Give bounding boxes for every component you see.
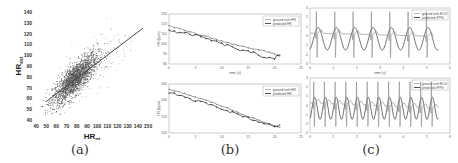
svg-text:3: 3 [306, 6, 308, 10]
svg-text:predicted HR: predicted HR [273, 92, 292, 96]
svg-text:-1: -1 [305, 113, 308, 117]
svg-text:130: 130 [24, 20, 33, 26]
svg-text:80: 80 [74, 123, 80, 129]
svg-text:10: 10 [220, 135, 224, 139]
svg-text:140: 140 [161, 98, 167, 102]
svg-text:0: 0 [306, 104, 308, 108]
svg-text:2: 2 [356, 66, 358, 70]
svg-text:15: 15 [246, 135, 250, 139]
svg-text:70: 70 [64, 123, 70, 129]
svg-text:70: 70 [26, 85, 32, 91]
svg-text:50: 50 [26, 106, 32, 112]
signal-line-plots: 0123456-3-2-10123time (s)ground truth EC… [300, 0, 458, 140]
svg-text:6: 6 [449, 66, 451, 70]
svg-text:0: 0 [168, 135, 170, 139]
svg-text:120: 120 [24, 31, 33, 37]
caption-a: (a) [60, 142, 100, 157]
svg-text:110: 110 [103, 123, 111, 129]
svg-text:HRest: HRest [14, 56, 24, 75]
svg-text:5: 5 [426, 135, 428, 139]
panel-b-hr-plots: 05101520258090100110120130time (s)HR (bp… [155, 0, 305, 140]
svg-text:-2: -2 [305, 53, 308, 57]
svg-text:40: 40 [26, 117, 32, 123]
svg-text:3: 3 [379, 66, 381, 70]
svg-text:10: 10 [220, 66, 224, 70]
svg-text:140: 140 [134, 123, 143, 129]
svg-text:5: 5 [426, 66, 428, 70]
svg-text:140: 140 [24, 9, 33, 15]
svg-text:1: 1 [306, 94, 308, 98]
svg-text:150: 150 [144, 123, 153, 129]
svg-text:-2: -2 [305, 122, 308, 126]
svg-text:HR (bpm): HR (bpm) [157, 101, 161, 116]
svg-text:100: 100 [161, 42, 167, 46]
svg-text:HRgt: HRgt [84, 132, 101, 140]
svg-text:120: 120 [161, 115, 167, 119]
svg-text:6: 6 [449, 135, 451, 139]
svg-text:2: 2 [306, 15, 308, 19]
svg-text:120: 120 [161, 22, 167, 26]
svg-text:time (s): time (s) [374, 71, 386, 75]
svg-text:90: 90 [163, 52, 167, 56]
svg-text:100: 100 [24, 52, 33, 58]
scatter-plot: 4050607080901001101201301404050607080901… [0, 0, 160, 140]
hr-line-plots: 05101520258090100110120130time (s)HR (bp… [155, 0, 305, 140]
svg-text:predicted rPPG: predicted rPPG [422, 86, 444, 90]
svg-text:-3: -3 [305, 62, 308, 66]
svg-text:20: 20 [273, 135, 277, 139]
svg-text:110: 110 [161, 32, 167, 36]
svg-text:1: 1 [332, 66, 334, 70]
svg-text:50: 50 [43, 123, 49, 129]
svg-text:160: 160 [161, 82, 167, 86]
caption-c: (c) [351, 142, 391, 157]
svg-text:120: 120 [113, 123, 122, 129]
svg-text:0: 0 [309, 135, 311, 139]
svg-text:2: 2 [356, 135, 358, 139]
svg-text:110: 110 [24, 41, 32, 47]
svg-text:4: 4 [402, 66, 404, 70]
svg-text:60: 60 [26, 95, 32, 101]
svg-text:-1: -1 [305, 43, 308, 47]
svg-text:130: 130 [123, 123, 132, 129]
caption-b: (b) [210, 142, 250, 157]
svg-text:5: 5 [194, 135, 196, 139]
svg-text:3: 3 [306, 76, 308, 80]
svg-text:2: 2 [306, 85, 308, 89]
svg-text:3: 3 [379, 135, 381, 139]
svg-text:0: 0 [309, 66, 311, 70]
svg-text:5: 5 [194, 66, 196, 70]
panel-a-scatter: 4050607080901001101201301404050607080901… [0, 0, 160, 140]
svg-text:100: 100 [161, 131, 167, 135]
svg-text:90: 90 [84, 123, 90, 129]
svg-text:predicted rPPG: predicted rPPG [422, 16, 444, 20]
panel-c-signal-plots: 0123456-3-2-10123time (s)ground truth EC… [300, 0, 458, 140]
svg-text:-3: -3 [305, 131, 308, 135]
svg-text:80: 80 [26, 74, 32, 80]
svg-text:1: 1 [332, 135, 334, 139]
svg-text:40: 40 [33, 123, 39, 129]
svg-text:HR (bpm): HR (bpm) [157, 31, 161, 46]
svg-text:15: 15 [246, 66, 250, 70]
svg-text:20: 20 [273, 66, 277, 70]
svg-text:0: 0 [168, 66, 170, 70]
svg-text:90: 90 [26, 63, 32, 69]
svg-text:130: 130 [161, 12, 167, 16]
svg-text:predicted HR: predicted HR [273, 22, 292, 26]
svg-text:0: 0 [306, 34, 308, 38]
svg-text:100: 100 [93, 123, 102, 129]
svg-text:time (s): time (s) [229, 71, 241, 75]
svg-text:60: 60 [54, 123, 60, 129]
svg-text:80: 80 [163, 62, 167, 66]
svg-text:1: 1 [306, 25, 308, 29]
svg-text:4: 4 [402, 135, 404, 139]
